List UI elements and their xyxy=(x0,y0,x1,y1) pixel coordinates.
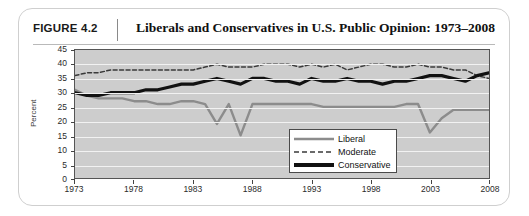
figure-label: FIGURE 4.2 xyxy=(33,22,98,34)
gridline xyxy=(75,108,489,109)
legend-swatch-conservative xyxy=(294,161,334,169)
y-axis-tick-label: 45 xyxy=(45,45,67,54)
legend-swatch-moderate xyxy=(294,148,334,156)
y-axis-tick-mark xyxy=(71,50,75,51)
y-axis-label: Percent xyxy=(29,99,38,127)
y-axis-tick-label: 35 xyxy=(45,74,67,83)
gridline xyxy=(75,122,489,123)
x-axis-tick-label: 1998 xyxy=(362,184,381,194)
y-axis-tick-label: 25 xyxy=(45,103,67,112)
gridline xyxy=(75,166,489,167)
y-axis-tick-label: 15 xyxy=(45,132,67,141)
chart-area: Percent 051015202530354045 1973197819831… xyxy=(31,49,497,199)
legend-swatch-liberal xyxy=(294,135,334,143)
legend-item-moderate: Moderate xyxy=(294,146,394,159)
figure-divider xyxy=(117,19,118,41)
y-axis-tick-label: 20 xyxy=(45,117,67,126)
y-axis-tick-label: 5 xyxy=(45,161,67,170)
series-line-liberal xyxy=(75,90,489,136)
y-axis-tick-label: 40 xyxy=(45,59,67,68)
x-axis-tick-label: 1993 xyxy=(302,184,321,194)
legend-label-liberal: Liberal xyxy=(338,133,365,146)
x-axis-ticks: 19731978198319881993199820032008 xyxy=(74,180,490,198)
y-axis-tick-label: 30 xyxy=(45,88,67,97)
series-line-conservative xyxy=(75,73,489,96)
figure-title: Liberals and Conservatives in U.S. Publi… xyxy=(136,20,495,36)
x-axis-tick-label: 1988 xyxy=(243,184,262,194)
x-axis-tick-label: 1983 xyxy=(183,184,202,194)
gridline xyxy=(75,137,489,138)
x-axis-tick-label: 2003 xyxy=(421,184,440,194)
legend-item-conservative: Conservative xyxy=(294,159,394,172)
figure-card: FIGURE 4.2 Liberals and Conservatives in… xyxy=(18,8,510,206)
x-axis-tick-label: 2008 xyxy=(481,184,500,194)
chart-legend: Liberal Moderate Conservative xyxy=(289,129,397,173)
gridline xyxy=(75,79,489,80)
gridline xyxy=(75,64,489,65)
legend-item-liberal: Liberal xyxy=(294,133,394,146)
y-axis-ticks: 051015202530354045 xyxy=(43,49,67,179)
plot-region xyxy=(74,49,490,179)
data-series-lines xyxy=(75,50,489,178)
gridline xyxy=(75,151,489,152)
legend-label-moderate: Moderate xyxy=(338,146,376,159)
y-axis-tick-label: 10 xyxy=(45,146,67,155)
x-axis-tick-label: 1973 xyxy=(65,184,84,194)
figure-header: FIGURE 4.2 Liberals and Conservatives in… xyxy=(33,19,495,45)
y-axis-tick-label: 0 xyxy=(45,175,67,184)
gridline xyxy=(75,93,489,94)
legend-label-conservative: Conservative xyxy=(338,159,391,172)
x-axis-tick-label: 1978 xyxy=(124,184,143,194)
